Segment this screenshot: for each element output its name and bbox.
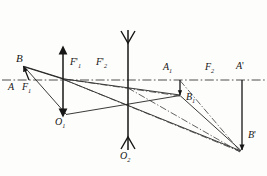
ray-construction-upper bbox=[64, 79, 180, 96]
label-image-B1: B1 bbox=[186, 92, 195, 104]
label-image-A1: A1 bbox=[163, 62, 172, 74]
label-focal-F2: F2 bbox=[205, 62, 214, 74]
label-image-A-prime: A' bbox=[236, 61, 244, 71]
label-focal-F1: F1 bbox=[22, 82, 31, 94]
ray-O1-to-B1 bbox=[66, 96, 180, 115]
label-object-A: A bbox=[8, 82, 14, 92]
solid-rays bbox=[24, 67, 241, 152]
lens-2 bbox=[121, 30, 135, 150]
label-center-O1: O1 bbox=[55, 117, 65, 129]
diagram-canvas bbox=[0, 0, 267, 176]
ray-diagram-figure: B A F1 F'1 F'2 O1 O2 A1 B1 F2 A' B' bbox=[0, 0, 267, 176]
ray-construction-lower bbox=[128, 88, 240, 152]
label-focal-F2-prime: F'2 bbox=[96, 57, 107, 69]
label-object-B: B bbox=[16, 53, 23, 64]
label-focal-F1-prime: F'1 bbox=[70, 57, 81, 69]
label-image-B-prime: B' bbox=[248, 130, 256, 140]
label-center-O2: O2 bbox=[120, 151, 130, 163]
ray-B-to-lens1-top bbox=[25, 67, 64, 79]
